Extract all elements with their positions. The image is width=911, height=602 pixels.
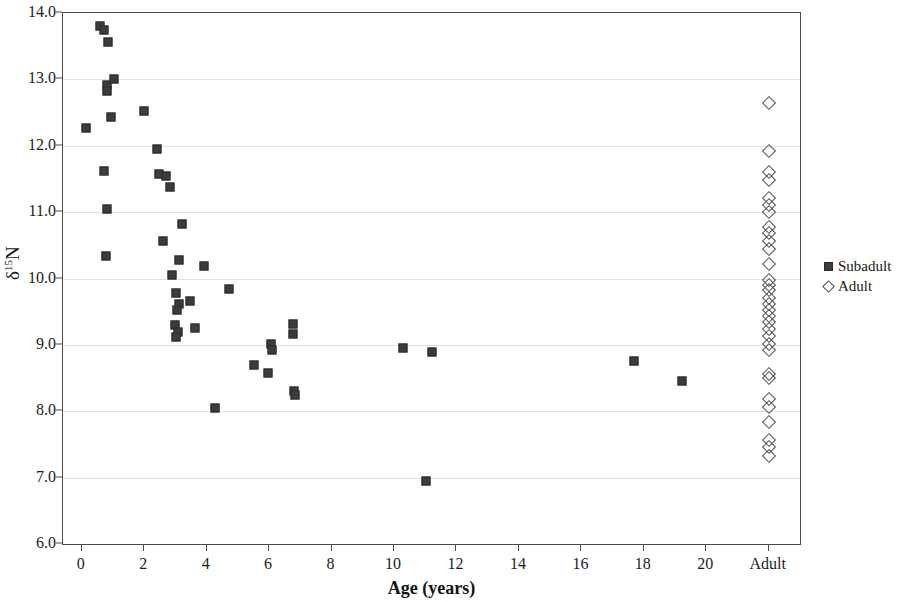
data-point-subadult (107, 112, 116, 121)
data-point-subadult (102, 251, 111, 260)
data-point-subadult (172, 289, 181, 298)
data-point-subadult (421, 476, 430, 485)
legend-item-subadult: Subadult (822, 256, 911, 276)
y-axis-tick-label: 6.0 (8, 535, 56, 551)
x-axis-tick-label: 16 (572, 556, 588, 572)
x-axis-tick-label: 8 (327, 556, 335, 572)
data-point-subadult (211, 403, 220, 412)
plot-area (62, 12, 801, 545)
filled-square-icon (822, 259, 836, 273)
y-axis-tick-label: 7.0 (8, 469, 56, 485)
data-point-adult (762, 257, 776, 271)
gridline (63, 79, 800, 80)
x-axis-tick-label: 0 (77, 556, 85, 572)
data-point-adult (762, 449, 776, 463)
data-point-adult (762, 242, 776, 256)
data-point-subadult (162, 171, 171, 180)
x-axis-tick-label: 6 (264, 556, 272, 572)
data-point-subadult (100, 166, 109, 175)
x-axis-tick-mark (643, 545, 644, 551)
data-point-subadult (288, 320, 297, 329)
legend-item-subadult-label: Subadult (838, 259, 891, 274)
open-diamond-icon (822, 279, 836, 293)
gridline (63, 146, 800, 147)
data-point-subadult (82, 124, 91, 133)
data-point-subadult (250, 360, 259, 369)
data-point-subadult (158, 237, 167, 246)
data-point-subadult (153, 145, 162, 154)
x-axis-tick-label: 14 (510, 556, 526, 572)
data-point-adult (762, 415, 776, 429)
x-axis-tick-label: 10 (385, 556, 401, 572)
data-point-subadult (677, 377, 686, 386)
x-axis-tick-mark (518, 545, 519, 551)
data-point-subadult (199, 261, 208, 270)
data-point-subadult (225, 285, 234, 294)
data-point-subadult (109, 75, 118, 84)
data-point-subadult (190, 323, 199, 332)
data-point-subadult (630, 357, 639, 366)
x-axis-tick-mark (393, 545, 394, 551)
legend-item-adult: Adult (822, 276, 911, 296)
gridline (63, 478, 800, 479)
gridline (63, 212, 800, 213)
y-axis-tick-layer: 6.07.08.09.010.011.012.013.014.0 (0, 12, 56, 545)
x-axis-tick-mark (268, 545, 269, 551)
x-axis-title: Age (years) (62, 578, 801, 599)
y-axis-tick-label: 10.0 (8, 270, 56, 286)
data-point-subadult (399, 344, 408, 353)
x-axis-tick-mark (81, 545, 82, 551)
data-point-subadult (289, 330, 298, 339)
x-axis-tick-label: 18 (635, 556, 651, 572)
scatter-chart-figure: δ15N 6.07.08.09.010.011.012.013.014.0 02… (0, 0, 911, 602)
x-axis-tick-mark (143, 545, 144, 551)
data-point-adult (762, 96, 776, 110)
y-axis-tick-label: 12.0 (8, 137, 56, 153)
y-axis-tick-label: 8.0 (8, 402, 56, 418)
y-axis-tick-label: 11.0 (8, 203, 56, 219)
data-point-subadult (102, 205, 111, 214)
x-axis-tick-mark (705, 545, 706, 551)
data-point-subadult (172, 332, 181, 341)
data-point-adult (762, 173, 776, 187)
data-point-subadult (186, 297, 195, 306)
x-axis-tick-mark (455, 545, 456, 551)
x-axis-tick-mark (206, 545, 207, 551)
x-axis-tick-label: 4 (202, 556, 210, 572)
x-axis-tick-mark (331, 545, 332, 551)
data-point-subadult (267, 346, 276, 355)
y-axis-tick-label: 9.0 (8, 336, 56, 352)
data-point-subadult (174, 255, 183, 264)
data-point-subadult (427, 347, 436, 356)
data-point-subadult (178, 220, 187, 229)
legend-item-adult-label: Adult (838, 279, 872, 294)
data-point-subadult (167, 271, 176, 280)
x-axis-tick-mark (580, 545, 581, 551)
y-axis-tick-label: 13.0 (8, 70, 56, 86)
gridline (63, 411, 800, 412)
chart-legend: Subadult Adult (822, 256, 911, 296)
data-point-subadult (165, 182, 174, 191)
data-point-subadult (102, 86, 111, 95)
gridline (63, 345, 800, 346)
x-axis-tick-label: Adult (750, 556, 786, 572)
x-axis-tick-layer: 02468101214161820Adult (62, 545, 801, 579)
data-point-subadult (172, 306, 181, 315)
data-point-subadult (140, 107, 149, 116)
data-point-subadult (290, 391, 299, 400)
x-axis-tick-mark (768, 545, 769, 551)
x-axis-tick-label: 12 (447, 556, 463, 572)
y-axis-tick-label: 14.0 (8, 4, 56, 20)
data-point-subadult (263, 368, 272, 377)
data-point-subadult (104, 38, 113, 47)
x-axis-tick-label: 2 (139, 556, 147, 572)
x-axis-tick-label: 20 (697, 556, 713, 572)
data-point-subadult (100, 25, 109, 34)
